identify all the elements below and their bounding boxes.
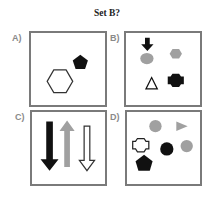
cross-black-icon: [168, 74, 184, 87]
cross-outline-icon: [133, 139, 149, 152]
pentagon-black-icon: [73, 55, 88, 69]
arrow-down-black-icon: [141, 38, 153, 51]
arrow-down-black-icon: [41, 121, 59, 170]
triangle-outline-icon: [146, 78, 157, 89]
circle-gray-icon: [149, 120, 161, 132]
panel-b: [124, 31, 202, 107]
triangle-right-gray-icon: [176, 121, 187, 130]
arrow-down-outline-icon: [79, 126, 94, 171]
panel-d: [125, 110, 202, 186]
panel-a-label: A): [12, 33, 22, 43]
panel-a: [29, 31, 107, 107]
circle-black-icon: [160, 142, 173, 155]
arrow-up-gray-icon: [60, 121, 75, 167]
panel-c: [30, 110, 107, 186]
panel-c-shapes: [32, 112, 105, 184]
panel-b-shapes: [126, 33, 200, 105]
panel-b-label: B): [110, 33, 120, 43]
hexagon-gray-icon: [170, 49, 182, 58]
hexagon-outline-icon: [47, 70, 73, 93]
panel-c-label: C): [15, 112, 25, 122]
circle-gray-icon: [181, 140, 193, 152]
panel-d-label: D): [110, 112, 120, 122]
pentagon-black-icon: [136, 155, 153, 171]
circle-gray-icon: [140, 53, 153, 64]
panel-a-shapes: [31, 33, 105, 105]
puzzle-title: Set B?: [0, 8, 214, 18]
panel-d-shapes: [127, 112, 200, 184]
